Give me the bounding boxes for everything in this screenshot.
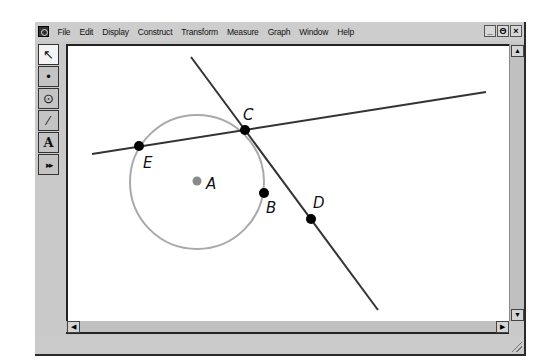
menu-bar: File Edit Display Construct Transform Me… bbox=[35, 22, 524, 41]
scroll-down-button[interactable]: ▼ bbox=[511, 309, 524, 321]
scroll-left-button[interactable]: ◀ bbox=[67, 321, 80, 333]
scroll-right-button[interactable]: ▶ bbox=[496, 321, 509, 333]
menu-graph[interactable]: Graph bbox=[263, 27, 295, 37]
app-icon[interactable] bbox=[38, 26, 49, 37]
vertical-scrollbar[interactable]: ▲ ▼ bbox=[509, 44, 524, 321]
window-controls: _ Θ × bbox=[484, 25, 522, 37]
straightedge-tool[interactable]: ∕ bbox=[38, 110, 59, 131]
menu-transform[interactable]: Transform bbox=[177, 27, 223, 37]
sketchpad-window: File Edit Display Construct Transform Me… bbox=[35, 22, 526, 356]
horizontal-scrollbar[interactable]: ◀ ▶ bbox=[66, 321, 509, 334]
custom-tool[interactable]: ▸▸ bbox=[38, 154, 59, 175]
toolbox: ↖ • ⊙ ∕ A ▸▸ bbox=[38, 44, 60, 176]
menu-construct[interactable]: Construct bbox=[133, 27, 177, 37]
resize-grip-icon[interactable] bbox=[512, 342, 522, 352]
status-bar bbox=[35, 336, 524, 354]
menu-file[interactable]: File bbox=[53, 27, 75, 37]
menu-help[interactable]: Help bbox=[333, 27, 359, 37]
point-A[interactable] bbox=[193, 177, 202, 186]
sketch-canvas[interactable] bbox=[66, 44, 509, 321]
point-tool[interactable]: • bbox=[38, 66, 59, 87]
minimize-button[interactable]: _ bbox=[484, 25, 496, 37]
menu-edit[interactable]: Edit bbox=[75, 27, 98, 37]
menu-display[interactable]: Display bbox=[98, 27, 133, 37]
point-B[interactable] bbox=[259, 188, 269, 198]
menu-window[interactable]: Window bbox=[295, 27, 333, 37]
close-button[interactable]: × bbox=[510, 25, 522, 37]
scroll-up-button[interactable]: ▲ bbox=[511, 45, 524, 57]
restore-button[interactable]: Θ bbox=[497, 25, 509, 37]
menu-measure[interactable]: Measure bbox=[222, 27, 263, 37]
selection-arrow-tool[interactable]: ↖ bbox=[38, 44, 59, 65]
point-C[interactable] bbox=[240, 125, 250, 135]
point-E[interactable] bbox=[134, 141, 144, 151]
text-tool[interactable]: A bbox=[38, 132, 59, 153]
point-D[interactable] bbox=[306, 214, 316, 224]
compass-tool[interactable]: ⊙ bbox=[38, 88, 59, 109]
